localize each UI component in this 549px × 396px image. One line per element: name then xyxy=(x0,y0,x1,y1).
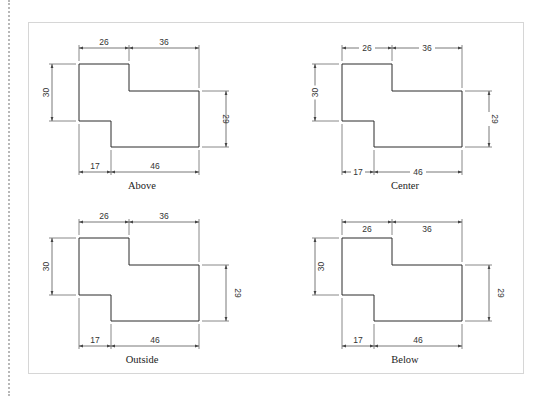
dimension-arrowhead xyxy=(51,291,54,295)
dimension-arrowhead xyxy=(225,91,228,95)
dimension-arrowhead xyxy=(111,345,115,348)
dimension-text-right: 29 xyxy=(490,114,500,124)
dimension-arrowhead xyxy=(107,345,111,348)
dimension-text-bottom-right: 46 xyxy=(150,161,160,171)
panel-below: 263617463029Below xyxy=(312,219,506,365)
dimension-arrowhead xyxy=(374,345,378,348)
dimension-text-bottom-left: 17 xyxy=(353,335,363,345)
dimension-arrowhead xyxy=(388,221,392,224)
dimension-arrowhead xyxy=(370,171,374,174)
dimension-text-left: 30 xyxy=(41,262,51,272)
dimension-text-top-left: 26 xyxy=(99,37,109,47)
dimension-text-top-right: 36 xyxy=(422,224,432,234)
dimension-text-left: 30 xyxy=(41,88,51,98)
dimension-text-left: 30 xyxy=(316,262,326,272)
dimension-text-right: 29 xyxy=(496,288,506,298)
part-outline xyxy=(79,238,199,321)
dimension-arrowhead xyxy=(314,64,317,68)
panel-outside: 263617463029Outside xyxy=(41,211,243,365)
dimension-arrowhead xyxy=(392,47,396,50)
dimension-arrowhead xyxy=(374,171,378,174)
panel-caption: Below xyxy=(391,354,419,365)
dimension-text-bottom-right: 46 xyxy=(413,167,423,177)
panel-caption: Outside xyxy=(126,354,159,365)
dimension-arrowhead xyxy=(225,265,228,269)
dimension-arrowhead xyxy=(488,143,491,147)
dimension-arrowhead xyxy=(51,238,54,242)
dimension-arrowhead xyxy=(314,291,317,295)
dimension-arrowhead xyxy=(129,221,133,224)
dimension-arrowhead xyxy=(458,171,462,174)
dimension-arrowhead xyxy=(125,47,129,50)
dimension-arrowhead xyxy=(107,171,111,174)
dimension-text-top-left: 26 xyxy=(362,43,372,53)
dimension-arrowhead xyxy=(314,117,317,121)
dimension-arrowhead xyxy=(458,221,462,224)
dimension-arrowhead xyxy=(225,143,228,147)
dimension-arrowhead xyxy=(458,345,462,348)
panel-caption: Above xyxy=(128,180,156,191)
dimension-text-right: 29 xyxy=(233,288,243,298)
dimension-arrowhead xyxy=(79,171,83,174)
dimension-text-bottom-right: 46 xyxy=(413,335,423,345)
dimension-text-bottom-left: 17 xyxy=(90,335,100,345)
dimension-text-bottom-left: 17 xyxy=(90,161,100,171)
part-outline xyxy=(79,64,199,147)
dimension-text-left: 30 xyxy=(310,88,320,98)
dimension-arrowhead xyxy=(488,317,491,321)
dimension-text-top-right: 36 xyxy=(159,211,169,221)
dimension-text-bottom-left: 17 xyxy=(353,167,363,177)
dimension-arrowhead xyxy=(79,345,83,348)
panel-caption: Center xyxy=(391,180,419,191)
dimension-arrowhead xyxy=(342,47,346,50)
dimension-arrowhead xyxy=(195,345,199,348)
dimension-arrowhead xyxy=(488,91,491,95)
dimension-arrowhead xyxy=(111,171,115,174)
dimension-arrowhead xyxy=(392,221,396,224)
dimension-arrowhead xyxy=(125,221,129,224)
dimension-arrowhead xyxy=(195,221,199,224)
dimension-arrowhead xyxy=(342,345,346,348)
dimension-text-top-right: 36 xyxy=(422,43,432,53)
dimension-text-right: 29 xyxy=(221,114,231,124)
dimension-arrowhead xyxy=(342,171,346,174)
panel-center: 263617463029Center xyxy=(310,43,500,191)
dimension-drawing: 263617463029Above 263617463029Center 263… xyxy=(0,0,549,396)
part-outline xyxy=(342,64,462,147)
dimension-arrowhead xyxy=(314,238,317,242)
dimension-arrowhead xyxy=(388,47,392,50)
panel-above: 263617463029Above xyxy=(41,37,231,191)
dimension-text-top-left: 26 xyxy=(362,224,372,234)
dimension-arrowhead xyxy=(225,317,228,321)
dimension-arrowhead xyxy=(79,47,83,50)
dimension-arrowhead xyxy=(129,47,133,50)
dimension-arrowhead xyxy=(195,171,199,174)
dimension-arrowhead xyxy=(195,47,199,50)
dimension-arrowhead xyxy=(488,265,491,269)
dimension-text-top-left: 26 xyxy=(99,211,109,221)
dimension-arrowhead xyxy=(342,221,346,224)
part-outline xyxy=(342,238,462,321)
dimension-arrowhead xyxy=(79,221,83,224)
dimension-arrowhead xyxy=(51,64,54,68)
dimension-arrowhead xyxy=(370,345,374,348)
dimension-arrowhead xyxy=(51,117,54,121)
dimension-text-bottom-right: 46 xyxy=(150,335,160,345)
dimension-text-top-right: 36 xyxy=(159,37,169,47)
dimension-arrowhead xyxy=(458,47,462,50)
